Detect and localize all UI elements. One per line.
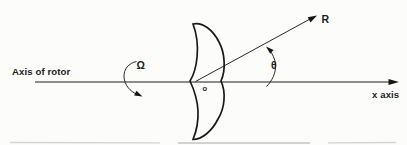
origin-label: o: [203, 84, 208, 93]
rotor-diagram-svg: Axis of rotor Ω R θ o x axis: [0, 0, 407, 145]
x-axis-label: x axis: [372, 89, 399, 100]
omega-label: Ω: [137, 59, 145, 71]
axis-of-rotor-label: Axis of rotor: [12, 66, 70, 77]
r-vector-line: [196, 19, 312, 82]
r-label: R: [322, 13, 330, 25]
r-vector-arrowhead-icon: [308, 16, 317, 23]
omega-rotation-arc: [124, 62, 138, 95]
x-axis-arrowhead-icon: [389, 79, 400, 85]
theta-angle-arrowhead-icon: [266, 47, 274, 54]
omega-rotation-arrowhead-icon: [134, 91, 142, 97]
rotor-diagram-figure: Axis of rotor Ω R θ o x axis: [0, 0, 407, 145]
theta-label: θ: [271, 59, 277, 71]
